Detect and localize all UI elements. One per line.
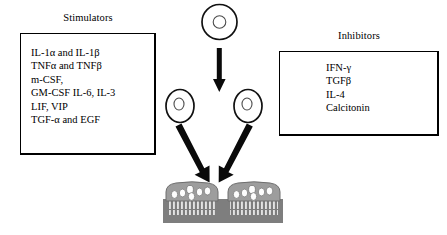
mononuclear-cell-right	[234, 90, 262, 123]
osteoclast-differentiation-figure: Stimulators IL-1α and IL-1β TNFα and TNF…	[0, 0, 447, 235]
mononuclear-cell-left	[166, 90, 194, 123]
precursor-cell	[202, 5, 237, 40]
ruffled-border-right	[230, 200, 278, 215]
osteoclast-left	[166, 182, 218, 215]
arrow-division	[213, 48, 226, 92]
cell-lineage-artwork	[0, 0, 447, 235]
ruffled-border-left	[168, 200, 216, 215]
arrow-fusion-left	[176, 124, 210, 183]
osteoclast-right	[228, 182, 280, 215]
arrow-fusion-right	[219, 124, 253, 183]
